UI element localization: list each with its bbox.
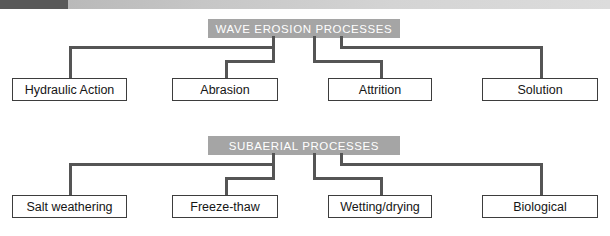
connector-drop-leaf-3 bbox=[380, 177, 383, 197]
connector-stem-right bbox=[340, 153, 343, 166]
connector-drop-leaf-4 bbox=[540, 46, 543, 80]
connector-branch-leaf-3 bbox=[313, 177, 383, 180]
flowchart-node-solution[interactable]: Solution bbox=[482, 78, 598, 101]
connector-stem-right-inner bbox=[313, 36, 316, 60]
connector-stem-right bbox=[340, 36, 343, 49]
flowchart-node-abrasion[interactable]: Abrasion bbox=[172, 78, 278, 101]
top-bar-dark-segment bbox=[0, 0, 68, 9]
connector-branch-leaf-3 bbox=[313, 60, 383, 63]
connector-stem-leaf-2 bbox=[272, 46, 275, 62]
connector-drop-leaf-2 bbox=[225, 60, 228, 80]
flowchart-node-freeze-thaw[interactable]: Freeze-thaw bbox=[172, 195, 278, 218]
connector-trunk-left bbox=[69, 46, 275, 49]
connector-branch-leaf-2 bbox=[225, 177, 275, 180]
flowchart-title-subaerial: SUBAERIAL PROCESSES bbox=[208, 136, 400, 155]
flowchart-node-salt-weathering[interactable]: Salt weathering bbox=[12, 195, 127, 218]
connector-trunk-left bbox=[69, 163, 275, 166]
connector-drop-leaf-1 bbox=[69, 163, 72, 197]
flowchart-wave-erosion: WAVE EROSION PROCESSES Hydraulic Action … bbox=[0, 14, 610, 110]
connector-stem-right-inner bbox=[313, 153, 316, 177]
flowchart-node-hydraulic-action[interactable]: Hydraulic Action bbox=[12, 78, 127, 101]
flowchart-node-wetting-drying[interactable]: Wetting/drying bbox=[328, 195, 432, 218]
connector-branch-leaf-2 bbox=[225, 60, 275, 63]
flowchart-title-wave-erosion: WAVE EROSION PROCESSES bbox=[208, 19, 400, 38]
connector-drop-leaf-2 bbox=[225, 177, 228, 197]
connector-drop-leaf-3 bbox=[380, 60, 383, 80]
connector-drop-leaf-1 bbox=[69, 46, 72, 80]
flowchart-node-attrition[interactable]: Attrition bbox=[328, 78, 432, 101]
connector-stem-leaf-2 bbox=[272, 163, 275, 179]
connector-trunk-right bbox=[340, 163, 543, 166]
flowchart-subaerial: SUBAERIAL PROCESSES Salt weathering Free… bbox=[0, 131, 610, 231]
top-bar-light-segment bbox=[68, 0, 610, 9]
connector-drop-leaf-4 bbox=[540, 163, 543, 197]
flowchart-node-biological[interactable]: Biological bbox=[482, 195, 598, 218]
top-decorative-bar bbox=[0, 0, 610, 9]
connector-trunk-right bbox=[340, 46, 543, 49]
